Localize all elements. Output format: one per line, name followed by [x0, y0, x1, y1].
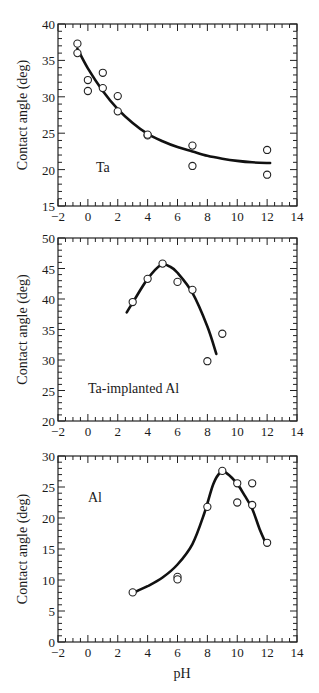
data-point-marker — [74, 40, 81, 47]
data-point-marker — [114, 108, 121, 115]
data-point-marker — [264, 539, 271, 546]
x-tick-label: 8 — [204, 645, 211, 660]
data-point-marker — [189, 142, 196, 149]
tick-marks — [58, 24, 297, 206]
x-tick-label: 0 — [85, 424, 92, 439]
x-tick-label: 0 — [85, 645, 92, 660]
data-point-marker — [99, 84, 106, 91]
data-point-marker — [249, 480, 256, 487]
y-tick-label: 25 — [42, 126, 55, 141]
y-tick-label: 20 — [42, 414, 55, 429]
data-point-marker — [84, 76, 91, 83]
fit-curve — [77, 49, 270, 163]
data-point-marker — [174, 576, 181, 583]
data-point-marker — [159, 260, 166, 267]
y-tick-label: 25 — [42, 384, 55, 399]
x-axis-label: pH — [173, 666, 190, 681]
x-tick-label: 14 — [291, 209, 305, 224]
y-tick-label: 50 — [42, 231, 55, 246]
fit-curve — [133, 471, 266, 593]
y-tick-label: 45 — [42, 262, 55, 277]
data-point-marker — [204, 503, 211, 510]
data-point-marker — [174, 278, 181, 285]
x-tick-label: 12 — [261, 424, 274, 439]
x-tick-label: 10 — [231, 645, 244, 660]
y-tick-label: 0 — [49, 635, 56, 650]
x-tick-label: 4 — [144, 424, 151, 439]
y-tick-label: 30 — [42, 449, 55, 464]
x-tick-label: 10 — [231, 209, 244, 224]
fit-curve — [127, 264, 217, 354]
panel-ta-implanted-al: −20246810121420253035404550Contact angle… — [15, 231, 304, 439]
figure: −202468101214152025303540Contact angle (… — [0, 0, 319, 693]
data-point-marker — [249, 501, 256, 508]
x-tick-label: 12 — [261, 209, 274, 224]
y-tick-label: 30 — [42, 353, 55, 368]
x-tick-label: 8 — [204, 424, 211, 439]
data-point-marker — [129, 298, 136, 305]
x-tick-label: 14 — [291, 645, 305, 660]
y-tick-label: 15 — [42, 199, 55, 214]
panel-ta: −202468101214152025303540Contact angle (… — [15, 17, 304, 224]
x-tick-label: 10 — [231, 424, 244, 439]
data-point-marker — [99, 69, 106, 76]
x-tick-label: 6 — [174, 645, 181, 660]
panel-al: −202468101214051015202530Contact angle (… — [15, 449, 304, 660]
y-tick-label: 40 — [42, 292, 55, 307]
y-tick-label: 35 — [42, 323, 55, 338]
data-point-marker — [219, 330, 226, 337]
data-point-marker — [234, 499, 241, 506]
data-point-marker — [264, 146, 271, 153]
data-point-marker — [144, 275, 151, 282]
y-tick-label: 40 — [42, 17, 55, 32]
x-tick-label: 4 — [144, 645, 151, 660]
y-axis-label: Contact angle (deg) — [15, 493, 31, 604]
data-point-marker — [189, 286, 196, 293]
data-point-marker — [234, 480, 241, 487]
y-tick-label: 20 — [42, 163, 55, 178]
data-point-marker — [74, 50, 81, 57]
x-tick-label: 12 — [261, 645, 274, 660]
y-axis-label: Contact angle (deg) — [15, 59, 31, 170]
y-tick-label: 20 — [42, 511, 55, 526]
data-point-marker — [264, 171, 271, 178]
data-point-marker — [204, 358, 211, 365]
x-tick-label: 0 — [85, 209, 92, 224]
x-tick-label: 14 — [291, 424, 305, 439]
x-tick-label: 8 — [204, 209, 211, 224]
y-tick-label: 25 — [42, 480, 55, 495]
data-point-marker — [144, 131, 151, 138]
x-tick-label: 2 — [115, 209, 122, 224]
data-point-marker — [219, 467, 226, 474]
x-tick-label: 6 — [174, 209, 181, 224]
y-axis-label: Contact angle (deg) — [15, 274, 31, 385]
y-tick-label: 30 — [42, 90, 55, 105]
y-tick-label: 10 — [42, 573, 55, 588]
y-tick-label: 35 — [42, 53, 55, 68]
x-tick-label: 6 — [174, 424, 181, 439]
panel-annotation: Ta-implanted Al — [88, 381, 179, 396]
plot-frame — [58, 24, 297, 206]
data-point-marker — [189, 162, 196, 169]
data-point-marker — [114, 92, 121, 99]
y-tick-label: 15 — [42, 542, 55, 557]
y-tick-label: 5 — [49, 604, 56, 619]
panel-annotation: Al — [88, 490, 102, 505]
data-point-marker — [129, 589, 136, 596]
plot-frame — [58, 456, 297, 642]
x-tick-label: 4 — [144, 209, 151, 224]
tick-marks — [58, 456, 297, 642]
x-tick-label: 2 — [115, 424, 122, 439]
panel-annotation: Ta — [96, 160, 111, 175]
x-tick-label: 2 — [115, 645, 122, 660]
data-point-marker — [84, 87, 91, 94]
